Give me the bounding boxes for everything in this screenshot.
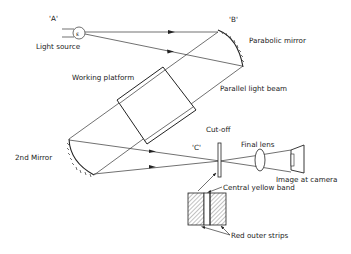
final-lens-icon	[255, 149, 265, 171]
label-red-outer-strips: Red outer strips	[231, 231, 288, 240]
label-point-a: 'A'	[49, 14, 58, 23]
light-source-icon: ε	[62, 27, 85, 39]
label-parallel-light-beam: Parallel light beam	[220, 84, 287, 93]
label-point-c: 'C'	[192, 143, 201, 152]
label-working-platform: Working platform	[72, 73, 134, 82]
label-final-lens: Final lens	[241, 140, 275, 149]
svg-text:ε: ε	[76, 30, 79, 37]
label-light-source: Light source	[36, 42, 81, 51]
label-point-b: 'B'	[229, 15, 238, 24]
red-outer-strip-left	[188, 193, 204, 225]
central-yellow-band	[204, 193, 210, 225]
camera-icon	[291, 145, 304, 173]
label-cut-off: Cut-off	[206, 125, 232, 134]
second-mirror-icon	[67, 139, 94, 177]
incident-rays	[85, 30, 242, 66]
label-central-yellow-band: Central yellow band	[223, 183, 295, 192]
cut-off-icon	[218, 143, 221, 177]
label-parabolic-mirror: Parabolic mirror	[249, 36, 306, 45]
schlieren-diagram: ε 'A' Light source 'B' Parabolic mirror …	[0, 0, 351, 254]
label-second-mirror: 2nd Mirror	[15, 153, 52, 162]
red-outer-strip-right	[210, 193, 226, 225]
parabolic-mirror-icon	[218, 30, 244, 67]
